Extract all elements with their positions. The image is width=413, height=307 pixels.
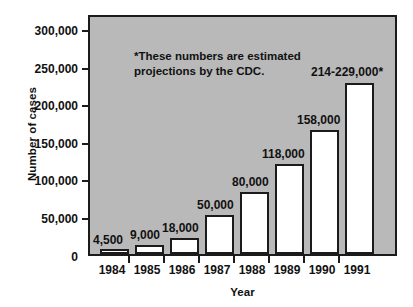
bar-value-label-1990: 158,000	[297, 114, 340, 126]
x-tick-mark	[128, 256, 130, 263]
x-tick-mark	[338, 256, 340, 263]
x-tick-mark	[163, 256, 165, 263]
x-tick-label-1991: 1991	[334, 264, 380, 276]
chart-annotation: *These numbers are estimated projections…	[134, 49, 314, 79]
y-axis-tick-labels: 300,000 250,000 200,000 150,000 100,000 …	[16, 0, 78, 307]
bar-value-label-1987: 50,000	[197, 199, 234, 211]
y-tick-label: 200,000	[16, 100, 78, 112]
annotation-line-2: projections by the CDC.	[134, 64, 314, 79]
y-tick-label: 300,000	[16, 25, 78, 37]
bar-1990[interactable]	[310, 130, 339, 254]
y-tick-label: 100,000	[16, 175, 78, 187]
x-tick-mark	[233, 256, 235, 263]
y-tick-label: 150,000	[16, 138, 78, 150]
bar-1986[interactable]	[170, 238, 199, 254]
x-tick-mark	[198, 256, 200, 263]
y-tick-label: 0	[16, 251, 78, 263]
bar-1988[interactable]	[240, 192, 269, 254]
bar-value-label-1985: 9,000	[130, 229, 160, 241]
bar-value-label-1984: 4,500	[93, 234, 123, 246]
bar-1984[interactable]	[100, 249, 129, 254]
bar-1985[interactable]	[135, 245, 164, 254]
bar-value-label-1991: 214-229,000*	[311, 66, 383, 78]
x-tick-mark	[303, 256, 305, 263]
bar-value-label-1986: 18,000	[162, 222, 199, 234]
bar-value-label-1989: 118,000	[262, 148, 305, 160]
annotation-line-1: *These numbers are estimated	[134, 49, 314, 64]
bar-chart-figure: Number of cases 300,000 250,000 200,000 …	[0, 0, 413, 307]
bar-1989[interactable]	[275, 164, 304, 254]
y-tick-label: 50,000	[16, 213, 78, 225]
plot-inner: *These numbers are estimated projections…	[90, 17, 395, 254]
plot-area: *These numbers are estimated projections…	[88, 15, 397, 256]
y-tick-label: 250,000	[16, 63, 78, 75]
bar-1987[interactable]	[205, 215, 234, 254]
x-tick-mark	[268, 256, 270, 263]
bar-value-label-1988: 80,000	[232, 176, 269, 188]
bar-1991[interactable]	[345, 83, 374, 254]
x-axis-title: Year	[88, 286, 397, 298]
